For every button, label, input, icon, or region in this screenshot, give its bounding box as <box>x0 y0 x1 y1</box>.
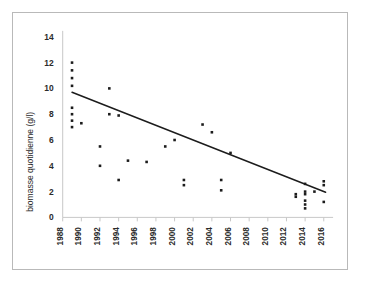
data-point <box>71 106 74 109</box>
data-point-group <box>71 61 325 209</box>
x-tick-label: 2010 <box>261 227 270 246</box>
data-point <box>183 179 186 182</box>
data-point <box>211 131 214 134</box>
x-tick-label: 1990 <box>74 227 83 246</box>
data-point <box>173 139 176 142</box>
data-point <box>183 184 186 187</box>
data-point <box>304 190 307 193</box>
data-point <box>117 114 120 117</box>
chart-canvas: biomasse quotidienne (g/l) 02468101214 1… <box>13 13 347 269</box>
x-tick-label: 2012 <box>279 227 288 246</box>
data-point <box>304 183 307 186</box>
y-tick-label: 4 <box>49 161 54 171</box>
data-point <box>294 195 297 198</box>
data-point <box>71 69 74 72</box>
y-tick-label: 14 <box>44 32 54 42</box>
data-point <box>108 113 111 116</box>
x-tick-label: 1994 <box>112 227 121 246</box>
data-point <box>99 145 102 148</box>
trend-line <box>72 92 326 192</box>
data-point <box>304 207 307 210</box>
data-point <box>71 126 74 129</box>
data-point <box>164 145 167 148</box>
data-point <box>108 87 111 90</box>
data-point <box>304 193 307 196</box>
data-point <box>322 180 325 183</box>
x-tick-label: 1996 <box>130 227 139 246</box>
data-point <box>220 179 223 182</box>
x-tick-label: 2014 <box>298 227 307 246</box>
x-tick-label: 2004 <box>205 227 214 246</box>
y-axis-title: biomasse quotidienne (g/l) <box>25 112 35 212</box>
x-tick-label: 2016 <box>317 227 326 246</box>
data-point <box>322 184 325 187</box>
data-point <box>71 119 74 122</box>
y-tick-label: 2 <box>49 187 54 197</box>
x-axis-tickmarks <box>63 217 324 221</box>
data-point <box>71 85 74 88</box>
x-axis-tick-labels: 1988199019921994199619982000200220042006… <box>56 227 326 246</box>
x-tick-label: 2002 <box>186 227 195 246</box>
data-point <box>99 165 102 168</box>
y-tick-label: 12 <box>44 58 54 68</box>
data-point <box>304 203 307 206</box>
figure-frame: biomasse quotidienne (g/l) 02468101214 1… <box>12 12 348 270</box>
y-tick-label: 8 <box>49 109 54 119</box>
x-tick-label: 1988 <box>56 227 65 246</box>
x-tick-label: 2006 <box>224 227 233 246</box>
x-tick-label: 2008 <box>242 227 251 246</box>
y-tick-label: 6 <box>49 135 54 145</box>
data-point <box>304 199 307 202</box>
data-point <box>220 189 223 192</box>
data-point <box>80 122 83 125</box>
y-axis-tick-labels: 02468101214 <box>44 32 54 223</box>
x-tick-label: 2000 <box>168 227 177 246</box>
data-point <box>313 190 316 193</box>
x-tick-label: 1992 <box>93 227 102 246</box>
data-point <box>322 201 325 204</box>
y-tick-label: 0 <box>49 212 54 222</box>
data-point <box>117 179 120 182</box>
x-tick-label: 1998 <box>149 227 158 246</box>
data-point <box>229 152 232 155</box>
data-point <box>201 123 204 126</box>
scatter-chart: biomasse quotidienne (g/l) 02468101214 1… <box>13 13 347 269</box>
data-point <box>294 193 297 196</box>
data-point <box>127 159 130 162</box>
data-point <box>145 161 148 164</box>
data-point <box>71 77 74 80</box>
data-point <box>71 113 74 116</box>
y-tick-label: 10 <box>44 83 54 93</box>
data-point <box>71 61 74 64</box>
